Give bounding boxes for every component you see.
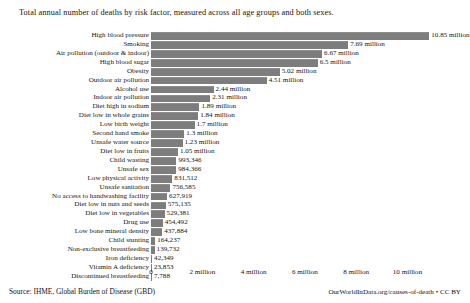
bar-row: Unsafe sanitation756,585	[0, 183, 469, 192]
x-tick-label: 10 million	[393, 266, 422, 278]
bar-row: Air pollution (outdoor & indoor)6.67 mil…	[0, 49, 469, 58]
category-label: Outdoor air pollution	[0, 76, 149, 85]
value-label: 454,492	[163, 218, 188, 227]
category-label: High blood pressure	[0, 31, 149, 40]
bar-row: Smoking7.69 million	[0, 40, 469, 49]
category-label: Child stunting	[0, 236, 149, 245]
x-tick-label: 0	[149, 266, 153, 278]
bar	[151, 41, 348, 49]
value-label: 1.89 million	[199, 102, 236, 111]
bar	[151, 77, 267, 85]
value-label: 139,732	[155, 245, 180, 254]
plot-area: High blood pressure10.85 millionSmoking7…	[0, 31, 469, 263]
category-label: Unsafe water source	[0, 138, 149, 147]
value-label: 575,135	[166, 200, 191, 209]
category-label: Low bone mineral density	[0, 227, 149, 236]
value-label: 10.85 million	[429, 31, 469, 40]
category-label: Diet high in sodium	[0, 102, 149, 111]
category-label: Diet low in whole grains	[0, 111, 149, 120]
bar	[151, 210, 165, 218]
value-label: 1.7 million	[195, 120, 228, 129]
category-label: Diet low in nuts and seeds	[0, 200, 149, 209]
value-label: 993,346	[176, 156, 201, 165]
category-label: Child wasting	[0, 156, 149, 165]
bar-row: Non-exclusive breastfeeding139,732	[0, 245, 469, 254]
value-label: 2.44 million	[214, 85, 251, 94]
category-label: Smoking	[0, 40, 149, 49]
bar-row: No access to handwashing facility627,919	[0, 192, 469, 201]
bar-row: Iron deficiency42,349	[0, 254, 469, 263]
value-label: 529,381	[165, 209, 190, 218]
x-tick-label: 8 million	[343, 266, 369, 278]
x-axis: 02 million4 million6 million8 million10 …	[0, 266, 469, 278]
category-label: Low physical activity	[0, 174, 149, 183]
category-label: Second hand smoke	[0, 129, 149, 138]
category-label: No access to handwashing facility	[0, 192, 149, 201]
value-label: 6.67 million	[322, 49, 359, 58]
bar-row: Indoor air pollution2.31 million	[0, 93, 469, 102]
bar	[151, 130, 184, 138]
value-label: 1.84 million	[198, 111, 235, 120]
value-label: 42,349	[152, 254, 174, 263]
bar	[151, 59, 318, 67]
value-label: 1.05 million	[178, 147, 215, 156]
bar-row: Unsafe sex984,366	[0, 165, 469, 174]
value-label: 5.02 million	[280, 67, 317, 76]
bar-row: High blood pressure10.85 million	[0, 31, 469, 40]
bar-row: Child stunting164,237	[0, 236, 469, 245]
bar	[151, 202, 166, 210]
category-label: Indoor air pollution	[0, 93, 149, 102]
category-label: Diet low in vegetables	[0, 209, 149, 218]
category-label: High blood sugar	[0, 58, 149, 67]
value-label: 756,585	[170, 183, 195, 192]
category-label: Alcohol use	[0, 85, 149, 94]
chart-title: Total annual number of deaths by risk fa…	[19, 8, 334, 17]
bar-row: Second hand smoke1.3 million	[0, 129, 469, 138]
bar-row: Outdoor air pollution4.51 million	[0, 76, 469, 85]
value-label: 4.51 million	[267, 76, 304, 85]
category-label: Iron deficiency	[0, 254, 149, 263]
category-label: Obesity	[0, 67, 149, 76]
bar-row: Diet low in nuts and seeds575,135	[0, 200, 469, 209]
category-label: Drug use	[0, 218, 149, 227]
bar-row: Diet low in whole grains1.84 million	[0, 111, 469, 120]
bar	[151, 184, 170, 192]
bar-row: Diet low in fruits1.05 million	[0, 147, 469, 156]
attribution-note: OurWorldInData.org/causes-of-death • CC …	[328, 288, 461, 296]
bar	[151, 50, 322, 58]
category-label: Low birth weight	[0, 120, 149, 129]
bar	[151, 148, 178, 156]
x-tick-label: 4 million	[241, 266, 267, 278]
bar	[151, 166, 176, 174]
value-label: 1.3 million	[184, 129, 217, 138]
bar-row: Obesity5.02 million	[0, 67, 469, 76]
category-label: Air pollution (outdoor & indoor)	[0, 49, 149, 58]
bar	[151, 95, 210, 103]
value-label: 164,237	[155, 236, 180, 245]
source-note: Source: IHME, Global Burden of Disease (…	[9, 287, 155, 296]
bar-row: Low birth weight1.7 million	[0, 120, 469, 129]
value-label: 6.5 million	[318, 58, 351, 67]
value-label: 831,512	[172, 174, 197, 183]
bar	[151, 112, 198, 120]
bar	[151, 86, 214, 94]
category-label: Unsafe sanitation	[0, 183, 149, 192]
bar	[151, 219, 163, 227]
bar	[151, 193, 167, 201]
bar-row: Drug use454,492	[0, 218, 469, 227]
value-label: 7.69 million	[348, 40, 385, 49]
bar-row: Child wasting993,346	[0, 156, 469, 165]
bar	[151, 103, 199, 111]
bar-row: Diet high in sodium1.89 million	[0, 102, 469, 111]
bar	[151, 157, 176, 165]
category-label: Diet low in fruits	[0, 147, 149, 156]
bar-row: Low bone mineral density437,884	[0, 227, 469, 236]
category-label: Non-exclusive breastfeeding	[0, 245, 149, 254]
value-label: 2.31 million	[210, 93, 247, 102]
x-tick-label: 2 million	[189, 266, 215, 278]
bar	[151, 228, 162, 236]
bar	[151, 121, 195, 129]
bar-row: Unsafe water source1.23 million	[0, 138, 469, 147]
bar-row: High blood sugar6.5 million	[0, 58, 469, 67]
